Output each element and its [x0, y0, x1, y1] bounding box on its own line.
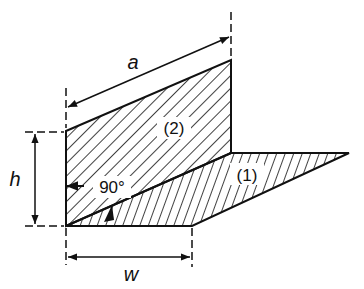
dimension-h [25, 132, 64, 226]
dimension-w [66, 228, 192, 267]
panel-1-label: (1) [237, 166, 258, 185]
dimension-w-label: w [124, 263, 140, 285]
weld-geometry-diagram: (2) (1) 90° a h w [0, 0, 364, 289]
angle-label: 90° [99, 178, 125, 197]
dimension-h-label: h [9, 168, 20, 190]
dimension-a-label: a [127, 51, 138, 73]
panel-2-label: (2) [164, 119, 185, 138]
